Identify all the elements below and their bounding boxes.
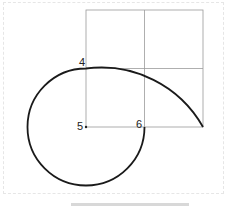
label-6: 6 bbox=[136, 118, 142, 130]
bottom-bar bbox=[71, 203, 189, 206]
label-5: 5 bbox=[77, 120, 83, 132]
grid-lines bbox=[86, 10, 203, 127]
spiral-diagram: 4 5 6 bbox=[0, 0, 228, 206]
center-point bbox=[85, 126, 87, 128]
label-4: 4 bbox=[79, 56, 85, 68]
spiral-curve bbox=[28, 68, 204, 186]
diagram-canvas: 4 5 6 bbox=[0, 0, 228, 206]
